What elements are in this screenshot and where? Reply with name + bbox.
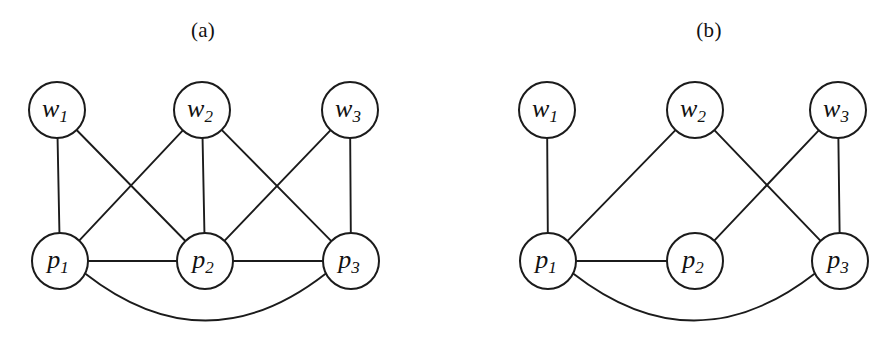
graph-node[interactable]: w1: [29, 82, 85, 138]
graph-node[interactable]: w3: [322, 82, 378, 138]
graph-node[interactable]: p1: [520, 233, 576, 289]
graph-node[interactable]: p3: [323, 233, 379, 289]
graph-node[interactable]: p3: [812, 233, 868, 289]
graph-edge: [79, 130, 183, 240]
edges-layer: [58, 130, 840, 321]
graph-node[interactable]: p2: [177, 233, 233, 289]
graph-node[interactable]: w3: [810, 82, 866, 138]
panel-a-caption: (a): [163, 18, 243, 43]
graph-edge: [350, 138, 351, 233]
graph-node[interactable]: w1: [519, 82, 575, 138]
figure-root: w1w2w3p1p2p3w1w2w3p1p2p3 (a) (b): [0, 0, 891, 354]
graph-edge: [547, 138, 548, 233]
graph-edge: [203, 138, 205, 233]
graph-node[interactable]: p1: [32, 233, 88, 289]
panel-b-caption: (b): [669, 18, 749, 43]
graph-edge: [58, 138, 60, 233]
graph-node[interactable]: p2: [667, 233, 723, 289]
graph-node[interactable]: w2: [667, 82, 723, 138]
nodes-layer: w1w2w3p1p2p3w1w2w3p1p2p3: [29, 82, 868, 289]
graph-node[interactable]: w2: [174, 82, 230, 138]
graph-canvas: w1w2w3p1p2p3w1w2w3p1p2p3: [0, 0, 891, 354]
graph-edge: [838, 138, 839, 233]
graph-edge: [568, 130, 676, 241]
